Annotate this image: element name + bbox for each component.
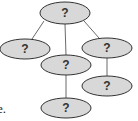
node-label: ? bbox=[103, 79, 110, 93]
node-left: ? bbox=[0, 39, 50, 59]
node-right-child: ? bbox=[82, 76, 132, 96]
edge-root-middle bbox=[65, 24, 66, 55]
edge-root-left bbox=[32, 21, 44, 39]
node-label: ? bbox=[62, 58, 69, 72]
node-right: ? bbox=[82, 38, 132, 58]
node-label: ? bbox=[103, 41, 110, 55]
node-label: ? bbox=[61, 6, 68, 20]
node-label: ? bbox=[62, 101, 69, 115]
clipped-text: e. bbox=[0, 101, 6, 117]
node-middle: ? bbox=[41, 55, 91, 75]
tree-diagram: ? ? ? ? ? ? bbox=[0, 0, 138, 121]
edge-root-right bbox=[84, 21, 99, 38]
node-label: ? bbox=[21, 42, 28, 56]
node-middle-child: ? bbox=[41, 98, 91, 118]
node-root: ? bbox=[40, 2, 90, 24]
